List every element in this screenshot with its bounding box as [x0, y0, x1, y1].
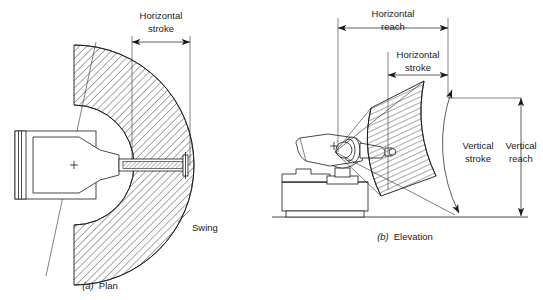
elevation-base-block: [282, 182, 368, 211]
plan-view: Horizontal stroke Swing (a)Plan: [15, 10, 218, 291]
elevation-hstroke-label-line2: stroke: [405, 62, 431, 73]
elevation-caption-marker: (b): [377, 231, 389, 242]
plan-swing-label: Swing: [192, 222, 218, 233]
plan-caption-text: Plan: [99, 280, 118, 291]
elevation-view: Horizontal reach Horizontal stroke Verti…: [272, 8, 537, 242]
plan-caption-marker: (a): [82, 280, 94, 291]
elevation-caption: (b)Elevation: [377, 231, 433, 242]
elevation-hstroke-label-line1: Horizontal: [397, 49, 440, 60]
elevation-vreach-label-line1: Vertical: [505, 140, 536, 151]
plan-caption: (a)Plan: [82, 280, 118, 291]
elevation-vstroke-label-line2: stroke: [465, 153, 491, 164]
plan-hstroke-label-line2: stroke: [148, 23, 174, 34]
elevation-vstroke-dimension-arc: [443, 90, 459, 213]
elevation-vertical-stroke-sector: [367, 81, 436, 196]
elevation-base-table-top: [282, 169, 330, 182]
plan-base-column-band: [15, 131, 26, 199]
plan-hstroke-label-line1: Horizontal: [140, 10, 183, 21]
elevation-caption-text: Elevation: [394, 231, 433, 242]
plan-ram-hatched-core: [123, 162, 183, 169]
figure-radial-drill-envelope: Horizontal stroke Swing (a)Plan: [0, 0, 543, 300]
elevation-stroke-hatched-area: [367, 81, 436, 196]
elevation-pedestal-neck: [335, 168, 350, 177]
elevation-vstroke-label-line1: Vertical: [462, 140, 493, 151]
elevation-hreach-label-line1: Horizontal: [372, 8, 415, 19]
elevation-vreach-label-line2: reach: [509, 153, 533, 164]
elevation-base-foot: [286, 211, 364, 217]
elevation-hreach-label-line2: reach: [381, 21, 405, 32]
